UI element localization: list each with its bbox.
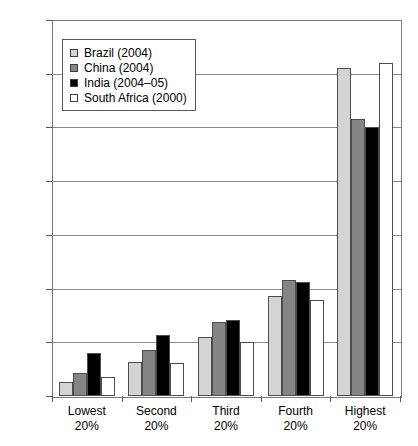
chart-legend: Brazil (2004)China (2004)India (2004–05)…: [62, 39, 196, 111]
bar-brazil: [337, 68, 351, 396]
x-axis-tick-mark: [400, 396, 401, 402]
x-axis-tick-mark: [122, 396, 123, 402]
legend-item: China (2004): [70, 60, 187, 75]
legend-swatch-icon: [70, 64, 78, 72]
bar-india: [87, 353, 101, 397]
legend-swatch-icon: [70, 94, 78, 102]
legend-item: India (2004–05): [70, 75, 187, 90]
legend-item-label: India (2004–05): [84, 76, 168, 90]
x-axis-group-label-line: Highest: [310, 404, 418, 419]
x-axis-tick-mark: [52, 396, 53, 402]
bar-safrica: [310, 300, 324, 396]
x-axis-tick-mark: [330, 396, 331, 402]
x-axis-tick-mark: [191, 396, 192, 402]
bar-safrica: [240, 342, 254, 396]
bar-safrica: [101, 377, 115, 396]
legend-swatch-icon: [70, 79, 78, 87]
bar-brazil: [198, 337, 212, 396]
bar-india: [156, 335, 170, 396]
x-axis-group-label: Highest20%: [310, 404, 418, 434]
bar-china: [282, 280, 296, 396]
bar-brazil: [268, 296, 282, 396]
legend-item: Brazil (2004): [70, 45, 187, 60]
x-axis-group-label-line: 20%: [310, 419, 418, 434]
bar-group: [330, 20, 400, 396]
bar-chart: 0.010.020.030.040.050.060.070.0 Lowest20…: [0, 0, 418, 446]
bar-safrica: [379, 63, 393, 396]
bar-brazil: [59, 382, 73, 397]
bar-india: [365, 127, 379, 396]
bar-india: [296, 282, 310, 396]
bar-china: [351, 119, 365, 396]
bar-china: [73, 373, 87, 396]
bar-china: [212, 322, 226, 396]
legend-item-label: Brazil (2004): [84, 46, 152, 60]
bar-group: [261, 20, 331, 396]
bar-india: [226, 320, 240, 396]
x-axis-tick-mark: [261, 396, 262, 402]
bar-brazil: [128, 362, 142, 396]
legend-item-label: China (2004): [84, 61, 153, 75]
bar-china: [142, 350, 156, 396]
legend-item: South Africa (2000): [70, 90, 187, 105]
bar-safrica: [170, 363, 184, 396]
legend-item-label: South Africa (2000): [84, 91, 187, 105]
legend-swatch-icon: [70, 49, 78, 57]
bar-group: [191, 20, 261, 396]
